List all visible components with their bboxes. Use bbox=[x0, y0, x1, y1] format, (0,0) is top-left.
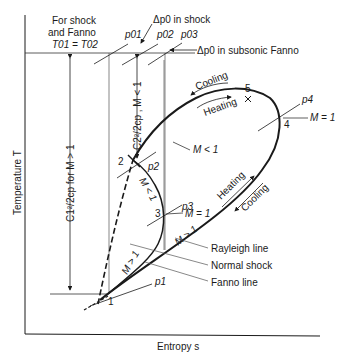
m-lt-1-upper-leader bbox=[173, 142, 190, 150]
dp0-shock-pointer bbox=[141, 24, 152, 43]
label-m-lt-1-fanno: M < 1 bbox=[137, 176, 159, 203]
label-c1: C1²/2cp for M > 1 bbox=[65, 144, 76, 222]
point-1: 1 bbox=[108, 296, 114, 307]
label-p1: p1 bbox=[154, 276, 166, 287]
p1-extension bbox=[84, 296, 108, 310]
label-rayleigh: Rayleigh line bbox=[211, 243, 269, 254]
note-line2: and Fanno bbox=[48, 27, 96, 38]
normal-shock-leader bbox=[130, 244, 208, 265]
label-heating-bottom: Heating bbox=[215, 169, 247, 201]
x-axis-label: Entropy s bbox=[157, 341, 199, 352]
point-3: 3 bbox=[155, 208, 161, 219]
label-p4: p4 bbox=[301, 94, 314, 105]
p3-isobar bbox=[147, 205, 182, 226]
point-2: 2 bbox=[118, 156, 124, 167]
label-m1-fanno: M = 1 bbox=[185, 208, 210, 219]
label-m-lt-1-upper: M < 1 bbox=[193, 144, 218, 155]
normal-shock-line bbox=[98, 160, 133, 304]
label-heating-top: Heating bbox=[202, 96, 238, 118]
point-5: 5 bbox=[245, 83, 251, 94]
y-axis-label: Temperature T bbox=[12, 150, 23, 215]
point-4: 4 bbox=[284, 119, 290, 130]
note-line1: For shock bbox=[52, 15, 97, 26]
label-p2: p2 bbox=[147, 161, 160, 172]
label-p01: p01 bbox=[124, 29, 142, 40]
label-m1-right: M = 1 bbox=[310, 112, 335, 123]
ts-diagram: For shock and Fanno T01 = T02 p01 p02 p0… bbox=[0, 0, 345, 363]
label-dp0-fanno: Δp0 in subsonic Fanno bbox=[197, 45, 299, 56]
p01-isobar bbox=[94, 44, 128, 64]
label-p03: p03 bbox=[180, 29, 198, 40]
label-p02: p02 bbox=[156, 29, 174, 40]
x-axis bbox=[25, 334, 320, 336]
label-normal-shock: Normal shock bbox=[211, 260, 273, 271]
label-dp0-shock: Δp0 in shock bbox=[153, 14, 211, 25]
label-fanno: Fanno line bbox=[211, 277, 258, 288]
label-c2: C2²/2cp , M < 1 bbox=[132, 81, 143, 150]
note-line3: T01 = T02 bbox=[52, 39, 98, 50]
